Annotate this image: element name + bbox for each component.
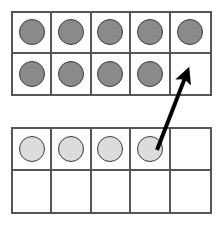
- top-frame-cell: [92, 54, 131, 95]
- top-frame-cell: [131, 13, 170, 54]
- counter-light: [58, 136, 84, 162]
- bottom-frame-cell: [52, 171, 91, 213]
- bottom-frame-cell-source: [131, 129, 170, 171]
- bottom-frame-cell: [13, 129, 52, 171]
- bottom-ten-frame: [11, 127, 212, 214]
- bottom-frame-cell: [131, 171, 170, 213]
- top-frame-cell: [92, 13, 131, 54]
- counter-dark: [177, 19, 203, 45]
- top-ten-frame: [11, 11, 212, 96]
- counter-dark: [137, 61, 163, 87]
- top-frame-cell: [13, 13, 52, 54]
- top-frame-cell: [13, 54, 52, 95]
- counter-dark: [19, 61, 45, 87]
- top-frame-cell: [52, 54, 91, 95]
- bottom-frame-cell: [92, 171, 131, 213]
- counter-dark: [58, 19, 84, 45]
- bottom-frame-cell: [171, 171, 210, 213]
- counter-light: [97, 136, 123, 162]
- top-frame-empty-cell: [171, 54, 210, 95]
- top-frame-cell: [171, 13, 210, 54]
- counter-dark: [97, 61, 123, 87]
- counter-dark: [97, 19, 123, 45]
- counter-dark: [137, 19, 163, 45]
- counter-dark: [19, 19, 45, 45]
- counter-dark: [58, 61, 84, 87]
- bottom-frame-cell: [92, 129, 131, 171]
- ten-frame-diagram: [0, 0, 221, 227]
- counter-light: [19, 136, 45, 162]
- counter-light-source: [137, 136, 163, 162]
- bottom-frame-cell: [13, 171, 52, 213]
- bottom-frame-cell: [52, 129, 91, 171]
- bottom-frame-cell: [171, 129, 210, 171]
- top-frame-cell: [131, 54, 170, 95]
- top-frame-cell: [52, 13, 91, 54]
